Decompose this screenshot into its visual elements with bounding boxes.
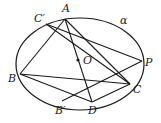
segment-C'-P [46,24,142,61]
segment-D-C [92,84,130,102]
segment-B'-P [62,61,142,101]
point-label-O: O [83,54,92,67]
ellipse-label: α [120,14,128,27]
center-point-dot [76,58,79,61]
point-label-D: D [87,104,97,117]
point-label-B-prime: B′ [54,104,66,117]
point-label-A: A [61,2,70,15]
point-label-C-prime: C′ [34,12,45,25]
ellipse-diagram: AC′PCDB′BO α [0,0,161,123]
point-label-P: P [144,56,153,69]
segments [20,19,142,102]
point-label-B: B [7,72,16,85]
segment-B-D [20,74,92,102]
points [76,58,79,61]
point-labels: AC′PCDB′BO [7,2,153,117]
point-label-C: C [133,83,142,96]
